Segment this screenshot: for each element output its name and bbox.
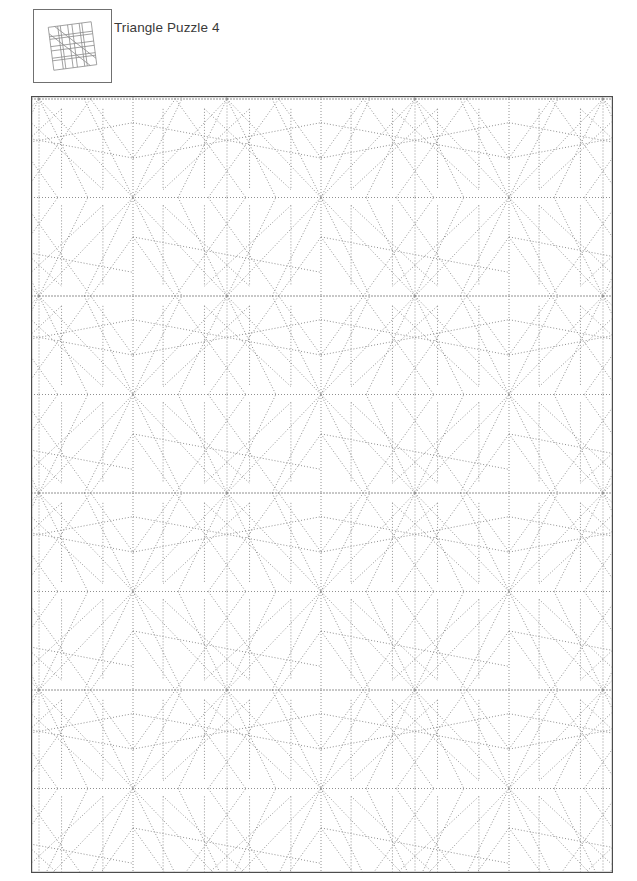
thumbnail-preview[interactable]	[33, 9, 112, 83]
puzzle-svg	[31, 96, 613, 873]
puzzle-frame[interactable]	[31, 96, 613, 873]
page-header: Triangle Puzzle 4	[0, 0, 637, 92]
thumbnail-border	[34, 10, 112, 83]
page-title: Triangle Puzzle 4	[114, 19, 220, 37]
thumbnail-svg	[33, 9, 112, 83]
